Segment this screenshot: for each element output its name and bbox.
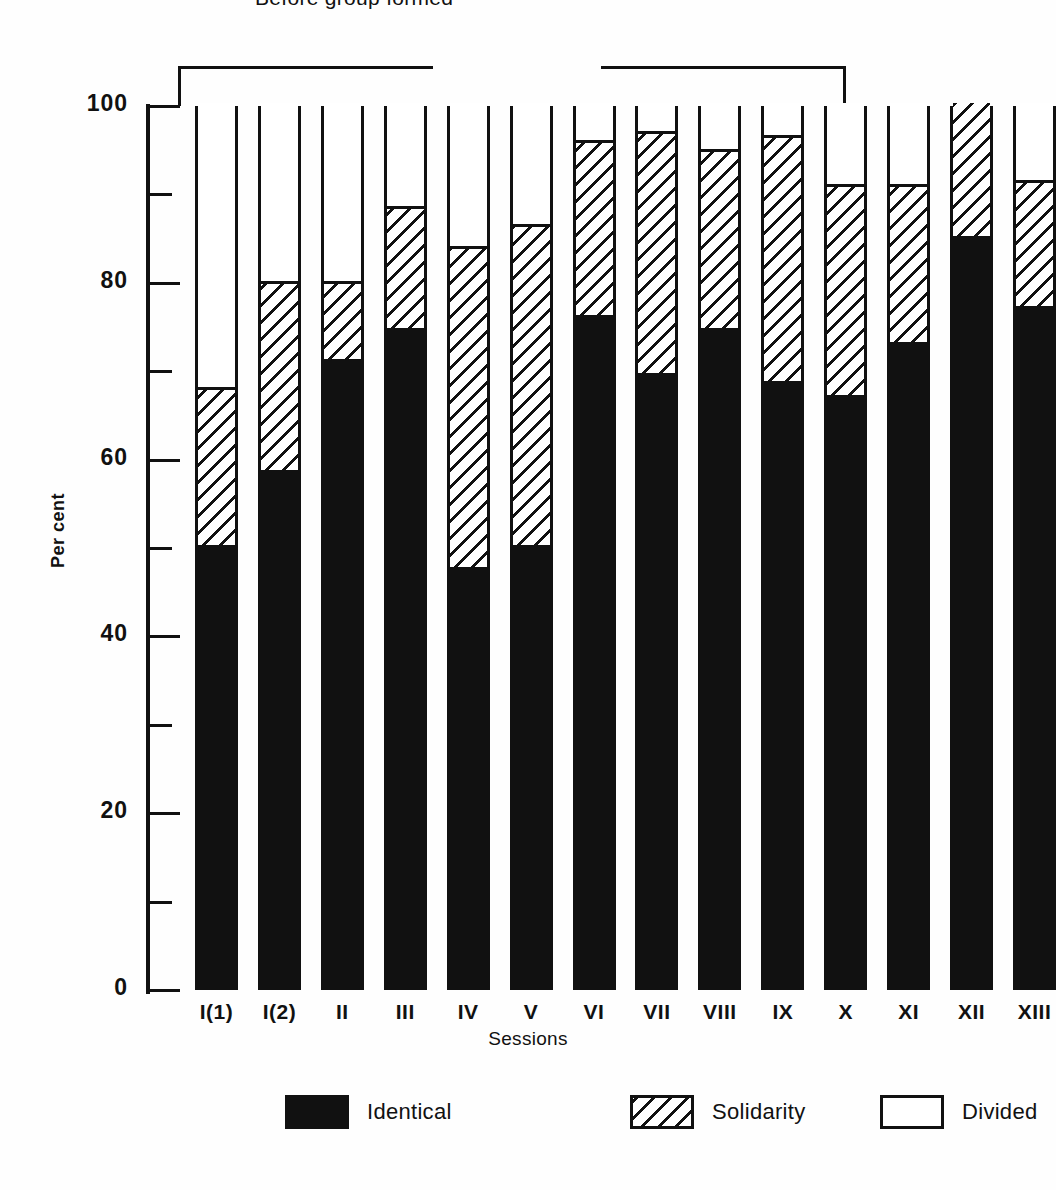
bar-IX[interactable] bbox=[761, 106, 804, 990]
segment-divided bbox=[890, 103, 927, 187]
segment-identical bbox=[638, 373, 675, 987]
bracket-tick-right bbox=[843, 66, 846, 106]
x-axis-title: Sessions bbox=[0, 1028, 1056, 1050]
segment-solidarity bbox=[638, 134, 675, 373]
y-tick-major bbox=[150, 459, 180, 462]
segment-divider bbox=[198, 387, 235, 390]
segment-identical bbox=[827, 395, 864, 987]
segment-divider bbox=[827, 184, 864, 187]
bar-I2[interactable] bbox=[258, 106, 301, 990]
segment-divided bbox=[827, 103, 864, 187]
segment-solidarity bbox=[890, 187, 927, 342]
segment-solidarity bbox=[576, 143, 613, 315]
segment-identical bbox=[953, 236, 990, 987]
bar-IV[interactable] bbox=[447, 106, 490, 990]
bar-VII[interactable] bbox=[635, 106, 678, 990]
segment-divider bbox=[324, 281, 361, 284]
legend-swatch-identical bbox=[285, 1095, 349, 1129]
segment-divided bbox=[261, 103, 298, 284]
segment-solidarity bbox=[387, 209, 424, 328]
segment-divided bbox=[1016, 103, 1053, 183]
y-tick-major bbox=[150, 635, 180, 638]
segment-solidarity bbox=[764, 138, 801, 381]
y-tick-minor bbox=[150, 370, 172, 373]
segment-identical bbox=[890, 342, 927, 987]
segment-solidarity bbox=[953, 103, 990, 236]
legend-item-divided[interactable]: Divided bbox=[880, 1095, 1037, 1129]
segment-divider bbox=[261, 281, 298, 284]
plot-area bbox=[178, 106, 1048, 990]
segment-solidarity bbox=[513, 227, 550, 545]
bar-XII[interactable] bbox=[950, 106, 993, 990]
segment-divided bbox=[324, 103, 361, 284]
legend-swatch-divided bbox=[880, 1095, 944, 1129]
segment-identical bbox=[198, 545, 235, 987]
segment-divided bbox=[450, 103, 487, 249]
y-tick-minor bbox=[150, 901, 172, 904]
y-axis-tick-label: 20 bbox=[0, 797, 128, 824]
bracket-line-right bbox=[601, 66, 846, 69]
y-tick-minor bbox=[150, 724, 172, 727]
segment-divider bbox=[638, 131, 675, 134]
legend-item-identical[interactable]: Identical bbox=[285, 1095, 452, 1129]
y-axis-tick-label: 100 bbox=[0, 90, 128, 117]
segment-solidarity bbox=[261, 284, 298, 470]
segment-solidarity bbox=[450, 249, 487, 567]
segment-divider bbox=[701, 149, 738, 152]
x-axis-tick-label: XIII bbox=[990, 1000, 1056, 1024]
segment-identical bbox=[1016, 306, 1053, 987]
chart-legend: IdenticalSolidarityDivided bbox=[0, 1095, 1056, 1155]
segment-identical bbox=[261, 470, 298, 987]
y-tick-minor bbox=[150, 547, 172, 550]
bar-VIII[interactable] bbox=[698, 106, 741, 990]
y-axis-tick-label: 0 bbox=[0, 974, 128, 1001]
bar-XIII[interactable] bbox=[1013, 106, 1056, 990]
y-axis-labels: 020406080100 bbox=[0, 0, 142, 1190]
bar-X[interactable] bbox=[824, 106, 867, 990]
segment-divided bbox=[701, 103, 738, 152]
bracket-tick-left bbox=[178, 66, 181, 106]
segment-identical bbox=[701, 328, 738, 987]
segment-divided bbox=[387, 103, 424, 209]
segment-identical bbox=[450, 567, 487, 987]
bar-III[interactable] bbox=[384, 106, 427, 990]
segment-identical bbox=[324, 359, 361, 987]
segment-identical bbox=[513, 545, 550, 987]
segment-solidarity bbox=[198, 390, 235, 545]
bar-V[interactable] bbox=[510, 106, 553, 990]
segment-divided bbox=[576, 103, 613, 143]
segment-identical bbox=[387, 328, 424, 987]
bar-VI[interactable] bbox=[573, 106, 616, 990]
bar-XI[interactable] bbox=[887, 106, 930, 990]
legend-label-divided: Divided bbox=[962, 1099, 1037, 1125]
segment-divider bbox=[764, 135, 801, 138]
bar-II[interactable] bbox=[321, 106, 364, 990]
segment-identical bbox=[764, 381, 801, 987]
y-tick-major bbox=[150, 282, 180, 285]
segment-identical bbox=[576, 315, 613, 987]
bar-I1[interactable] bbox=[195, 106, 238, 990]
legend-swatch-solidarity bbox=[630, 1095, 694, 1129]
y-axis-tick-label: 40 bbox=[0, 620, 128, 647]
legend-item-solidarity[interactable]: Solidarity bbox=[630, 1095, 805, 1129]
segment-divider bbox=[513, 224, 550, 227]
segment-divided bbox=[513, 103, 550, 227]
y-tick-minor bbox=[150, 193, 172, 196]
segment-divider bbox=[1016, 180, 1053, 183]
segment-solidarity bbox=[827, 187, 864, 395]
segment-divider bbox=[387, 206, 424, 209]
before-group-formed-bracket bbox=[178, 66, 846, 106]
y-axis-title: Per cent bbox=[48, 461, 69, 601]
y-axis-tick-label: 80 bbox=[0, 267, 128, 294]
segment-divider bbox=[450, 246, 487, 249]
legend-label-identical: Identical bbox=[367, 1099, 452, 1125]
figure-stacked-bar-chart: Before group formed 020406080100 Per cen… bbox=[0, 0, 1056, 1190]
y-tick-major bbox=[150, 105, 180, 108]
segment-divider bbox=[576, 140, 613, 143]
segment-divided bbox=[764, 103, 801, 138]
segment-solidarity bbox=[324, 284, 361, 359]
segment-solidarity bbox=[701, 152, 738, 329]
segment-divider bbox=[890, 184, 927, 187]
segment-divided bbox=[638, 103, 675, 134]
y-tick-major bbox=[150, 812, 180, 815]
